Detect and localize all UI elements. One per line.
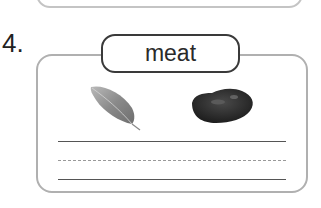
previous-question-card	[36, 0, 303, 8]
writing-line-middle	[58, 160, 286, 161]
question-card	[36, 54, 308, 193]
word-label: meat	[101, 34, 240, 73]
question-number: 4.	[2, 30, 24, 56]
writing-line-top	[58, 141, 286, 142]
leaf-image	[88, 84, 152, 132]
rock-image	[188, 85, 258, 127]
word-text: meat	[145, 40, 196, 67]
writing-line-bottom	[58, 179, 286, 180]
